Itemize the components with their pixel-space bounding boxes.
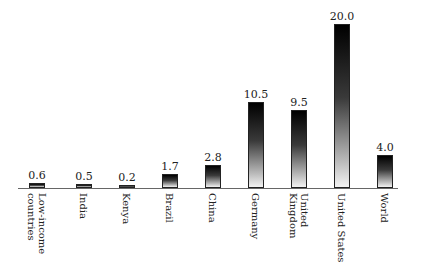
bar <box>377 155 393 188</box>
value-label: 0.6 <box>17 169 57 182</box>
bar-chart: 0.6Low-income countries0.5India0.2Kenya1… <box>0 0 432 266</box>
value-label: 4.0 <box>365 141 405 154</box>
bar <box>334 24 350 188</box>
bar <box>119 185 135 188</box>
x-axis-line <box>18 188 398 189</box>
value-label: 10.5 <box>236 88 276 101</box>
value-label: 2.8 <box>193 151 233 164</box>
value-label: 1.7 <box>150 160 190 173</box>
value-label: 9.5 <box>279 96 319 109</box>
bar <box>205 165 221 188</box>
value-label: 20.0 <box>322 10 362 23</box>
category-label: Brazil <box>164 193 175 223</box>
bar <box>248 102 264 188</box>
bar <box>162 174 178 188</box>
category-label: Kenya <box>121 193 132 224</box>
bar <box>291 110 307 188</box>
bar <box>29 183 45 188</box>
category-label: United Kingdom <box>288 193 310 238</box>
bar <box>76 184 92 188</box>
category-label: India <box>78 193 89 219</box>
category-label: World <box>379 193 390 223</box>
category-label: United States <box>336 193 347 262</box>
value-label: 0.5 <box>64 170 104 183</box>
value-label: 0.2 <box>107 171 147 184</box>
category-label: China <box>207 193 218 223</box>
category-label: Low-income countries <box>26 193 48 254</box>
category-label: Germany <box>250 193 261 239</box>
